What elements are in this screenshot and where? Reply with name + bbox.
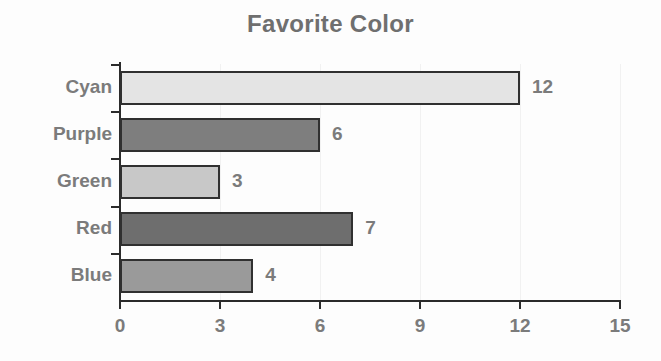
x-axis-tick: [119, 300, 121, 309]
x-axis-tick: [319, 300, 321, 309]
x-axis-tick: [519, 300, 521, 309]
plot-area: 126374: [120, 64, 620, 300]
bar-value-label: 12: [532, 76, 553, 98]
bar-value-label: 4: [265, 264, 276, 286]
x-axis-tick-label: 9: [395, 315, 445, 337]
x-axis-tick: [219, 300, 221, 309]
bar: [120, 212, 353, 246]
x-axis-tick-label: 3: [195, 315, 245, 337]
chart-title: Favorite Color: [0, 10, 661, 38]
x-axis-tick-label: 6: [295, 315, 345, 337]
bar-value-label: 6: [332, 123, 343, 145]
y-axis-category-label: Green: [2, 170, 112, 192]
x-axis-tick: [419, 300, 421, 309]
bar-value-label: 7: [365, 217, 376, 239]
bar: [120, 259, 253, 293]
x-axis-line: [119, 300, 621, 302]
y-axis-category-label: Cyan: [2, 76, 112, 98]
y-axis-category-label: Red: [2, 217, 112, 239]
bar-value-label: 3: [232, 170, 243, 192]
gridline: [620, 64, 621, 300]
x-axis-tick-label: 15: [595, 315, 645, 337]
bar: [120, 165, 220, 199]
x-axis-tick-label: 0: [95, 315, 145, 337]
x-axis-tick: [619, 300, 621, 309]
x-axis-tick-label: 12: [495, 315, 545, 337]
bar-chart: Favorite Color 03691215 CyanPurpleGreenR…: [0, 0, 661, 361]
y-axis-category-label: Purple: [2, 123, 112, 145]
bar: [120, 118, 320, 152]
y-axis-category-label: Blue: [2, 264, 112, 286]
y-axis-tick: [111, 111, 120, 113]
y-axis-tick: [111, 253, 120, 255]
y-axis-tick: [111, 64, 120, 66]
y-axis-tick: [111, 206, 120, 208]
bar: [120, 71, 520, 105]
y-axis-tick: [111, 158, 120, 160]
